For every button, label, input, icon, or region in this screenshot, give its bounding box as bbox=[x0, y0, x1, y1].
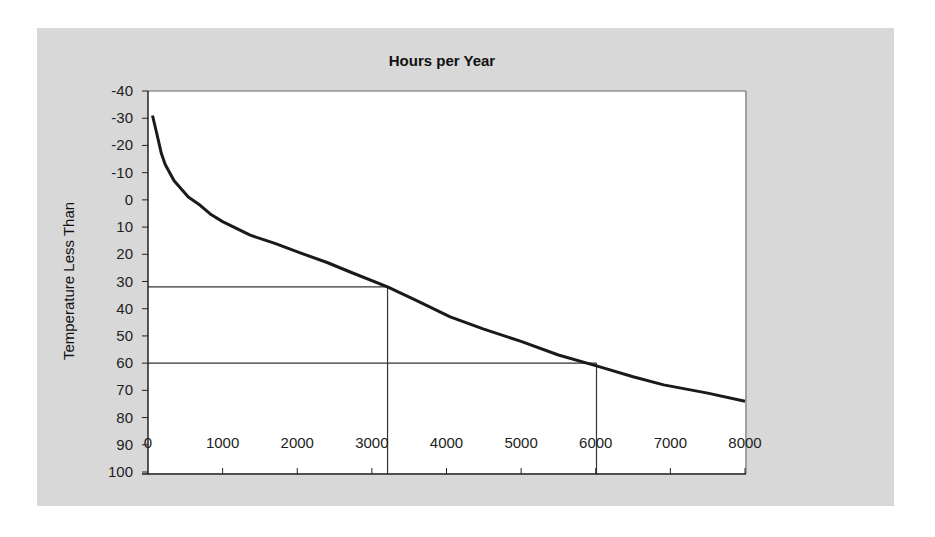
x-tick-label: 1000 bbox=[206, 434, 239, 451]
y-tick-label: -40 bbox=[111, 82, 133, 99]
x-tick-label: 3000 bbox=[355, 434, 388, 451]
y-axis-ticks: -40-30-20-100102030405060708090100 bbox=[108, 82, 148, 480]
y-tick-label: 40 bbox=[116, 300, 133, 317]
y-tick-label: 30 bbox=[116, 273, 133, 290]
y-tick-label: 70 bbox=[116, 381, 133, 398]
y-tick-label: 100 bbox=[108, 463, 133, 480]
line-chart: -40-30-20-100102030405060708090100 01000… bbox=[0, 0, 935, 537]
y-tick-label: -20 bbox=[111, 136, 133, 153]
y-tick-label: 80 bbox=[116, 409, 133, 426]
x-tick-label: 6000 bbox=[579, 434, 612, 451]
chart-title: Hours per Year bbox=[389, 52, 496, 69]
x-tick-label: 7000 bbox=[654, 434, 687, 451]
x-tick-label: 4000 bbox=[430, 434, 463, 451]
x-tick-label: 5000 bbox=[504, 434, 537, 451]
x-tick-label: 8000 bbox=[728, 434, 761, 451]
y-tick-label: 20 bbox=[116, 245, 133, 262]
y-tick-label: -30 bbox=[111, 109, 133, 126]
y-tick-label: 0 bbox=[125, 191, 133, 208]
y-axis-label: Temperature Less Than bbox=[60, 202, 77, 360]
y-tick-label: 50 bbox=[116, 327, 133, 344]
y-tick-label: -10 bbox=[111, 164, 133, 181]
y-tick-label: 10 bbox=[116, 218, 133, 235]
x-tick-label: 0 bbox=[144, 434, 152, 451]
y-tick-label: 60 bbox=[116, 354, 133, 371]
y-tick-label: 90 bbox=[116, 436, 133, 453]
x-tick-label: 2000 bbox=[281, 434, 314, 451]
plot-area bbox=[148, 91, 745, 473]
